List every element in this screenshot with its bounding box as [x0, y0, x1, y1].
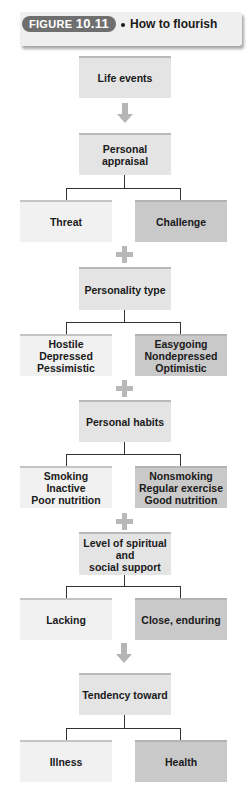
- node-nonsmoking-exercise-good-nutrition: Nonsmoking Regular exercise Good nutriti…: [135, 466, 227, 508]
- node-personal-habits: Personal habits: [79, 400, 171, 442]
- connector-line: [66, 728, 67, 740]
- connector-line: [124, 442, 125, 454]
- figure-badge-prefix: FIGURE: [29, 18, 76, 30]
- node-label: Threat: [50, 216, 82, 228]
- connector-line: [180, 728, 181, 740]
- node-label-line: Optimistic: [155, 362, 206, 374]
- node-label: Life events: [98, 72, 153, 84]
- connector-line: [66, 728, 181, 729]
- node-label-line: Good nutrition: [145, 494, 218, 506]
- node-lacking: Lacking: [20, 598, 112, 640]
- connector-line: [66, 586, 67, 598]
- figure-title-text: How to flourish: [130, 17, 217, 31]
- node-hostile-depressed-pessimistic: Hostile Depressed Pessimistic: [20, 334, 112, 376]
- node-label: Illness: [50, 756, 83, 768]
- node-challenge: Challenge: [135, 200, 227, 242]
- figure-badge: FIGURE 10.11: [22, 16, 116, 32]
- node-label-line: Poor nutrition: [31, 494, 100, 506]
- node-personality-type: Personality type: [79, 267, 171, 310]
- connector-line: [124, 715, 125, 728]
- node-label-line: Hostile: [48, 338, 83, 350]
- node-label-line: Depressed: [39, 350, 93, 362]
- node-label: Personality type: [84, 284, 165, 296]
- node-illness: Illness: [20, 740, 112, 782]
- connector-line: [124, 175, 125, 188]
- down-arrow-head-icon: [116, 654, 132, 663]
- connector-line: [180, 454, 181, 466]
- node-personal-appraisal: Personal appraisal: [79, 133, 171, 175]
- node-label-line: Regular exercise: [139, 482, 223, 494]
- node-label: Close, enduring: [141, 614, 220, 626]
- down-arrow-head-icon: [117, 114, 133, 123]
- node-health: Health: [135, 740, 227, 782]
- connector-line: [180, 586, 181, 598]
- node-label-line: Smoking: [44, 470, 88, 482]
- node-label-line: Pessimistic: [37, 362, 95, 374]
- connector-line: [180, 322, 181, 334]
- connector-line: [124, 575, 125, 586]
- connector-line: [66, 454, 181, 455]
- connector-line: [66, 188, 67, 200]
- plus-icon-bar: [116, 519, 133, 524]
- node-easygoing-nondepressed-optimistic: Easygoing Nondepressed Optimistic: [135, 334, 227, 376]
- connector-line: [66, 322, 181, 323]
- connector-line: [66, 322, 67, 334]
- bullet-icon: [121, 23, 125, 27]
- node-label: Personal appraisal: [79, 143, 171, 167]
- connector-line: [66, 188, 181, 189]
- node-label-line: Easygoing: [154, 338, 207, 350]
- node-life-events: Life events: [79, 56, 171, 98]
- node-spiritual-social-support: Level of spiritual and social support: [79, 532, 171, 575]
- node-label: Personal habits: [86, 416, 164, 428]
- figure-number: 10.11: [76, 16, 109, 31]
- node-smoking-inactive-poor-nutrition: Smoking Inactive Poor nutrition: [20, 466, 112, 508]
- node-label: Tendency toward: [82, 689, 168, 701]
- connector-line: [66, 586, 181, 587]
- node-label-line: Nondepressed: [145, 350, 218, 362]
- down-arrow-icon: [122, 103, 128, 114]
- node-threat: Threat: [20, 200, 112, 242]
- node-label: Lacking: [46, 614, 86, 626]
- node-tendency-toward: Tendency toward: [79, 673, 171, 715]
- node-close-enduring: Close, enduring: [135, 598, 227, 640]
- figure-title: How to flourish: [121, 15, 217, 33]
- node-label-line: Level of spiritual and: [79, 537, 171, 561]
- plus-icon-bar: [116, 252, 133, 257]
- connector-line: [180, 188, 181, 200]
- down-arrow-icon: [121, 643, 127, 654]
- node-label-line: Nonsmoking: [149, 470, 213, 482]
- plus-icon-bar: [116, 386, 133, 391]
- node-label-line: social support: [89, 561, 161, 573]
- connector-line: [66, 454, 67, 466]
- node-label: Health: [165, 756, 197, 768]
- node-label: Challenge: [156, 216, 206, 228]
- node-label-line: Inactive: [46, 482, 85, 494]
- connector-line: [124, 310, 125, 322]
